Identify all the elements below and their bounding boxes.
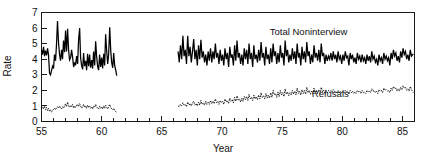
x-tick-label-85: 85 xyxy=(397,126,409,137)
y-axis-tick-labels: 01234567 xyxy=(32,7,38,127)
y-tick-label-3: 3 xyxy=(32,69,38,80)
x-tick-label-80: 80 xyxy=(337,126,349,137)
x-tick-label-55: 55 xyxy=(36,126,48,137)
rate-vs-year-line-chart: 01234567 55606570758085 Total Nonintervi… xyxy=(0,0,446,157)
data-series-group xyxy=(42,21,414,113)
x-axis-tick-labels: 55606570758085 xyxy=(36,126,409,137)
y-axis-title: Rate xyxy=(2,55,13,77)
chart-canvas: 01234567 55606570758085 Total Nonintervi… xyxy=(0,0,446,157)
y-tick-label-2: 2 xyxy=(32,85,38,96)
series-annotation-group: Total NoninterviewRefusals xyxy=(270,26,349,99)
x-tick-label-60: 60 xyxy=(96,126,108,137)
series-line-total-noninterview-cont xyxy=(178,36,413,67)
y-tick-label-6: 6 xyxy=(32,23,38,34)
series-line-total-noninterview xyxy=(42,21,117,76)
x-axis-title: Year xyxy=(213,143,234,154)
series-label-total-noninterview: Total Noninterview xyxy=(270,26,348,37)
x-tick-label-65: 65 xyxy=(156,126,168,137)
x-tick-label-75: 75 xyxy=(277,126,289,137)
x-tick-label-70: 70 xyxy=(216,126,228,137)
y-tick-label-7: 7 xyxy=(32,7,38,18)
y-tick-label-1: 1 xyxy=(32,101,38,112)
x-axis-ticks xyxy=(42,116,415,122)
y-axis-ticks xyxy=(42,13,47,122)
y-tick-label-4: 4 xyxy=(32,54,38,65)
series-line-refusals-cont xyxy=(178,86,413,107)
y-tick-label-5: 5 xyxy=(32,38,38,49)
series-label-refusals: Refusals xyxy=(312,88,349,99)
series-line-refusals xyxy=(42,102,117,113)
